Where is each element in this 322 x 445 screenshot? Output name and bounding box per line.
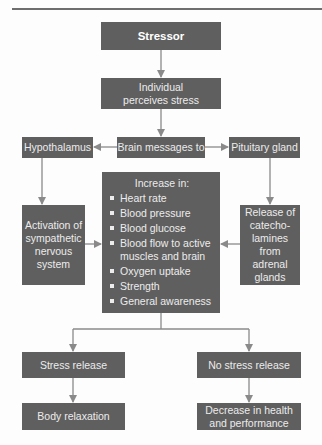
pituitary-label: Pituitary gland	[231, 141, 298, 154]
increase-box: Increase in: Heart rate Blood pressure B…	[102, 172, 220, 313]
list-item: Blood pressure	[110, 207, 214, 220]
brain-messages-label: Brain messages to	[118, 141, 205, 154]
stress-release-box: Stress release	[22, 352, 125, 378]
list-item: Blood flow to active muscles and brain	[110, 237, 214, 263]
list-item: Blood glucose	[110, 222, 214, 235]
list-item: General awareness	[110, 295, 214, 308]
pituitary-box: Pituitary gland	[229, 137, 300, 158]
no-stress-release-box: No stress release	[197, 352, 301, 378]
decrease-health-box: Decrease in health and performance	[197, 403, 301, 430]
activation-box: Activation of sympathetic nervous system	[22, 205, 85, 285]
bullet-icon	[110, 241, 114, 245]
list-item: Strength	[110, 280, 214, 293]
no-stress-release-label: No stress release	[208, 359, 290, 372]
increase-title: Increase in:	[110, 177, 214, 190]
list-item: Heart rate	[110, 192, 214, 205]
bullet-icon	[110, 299, 114, 303]
stressor-label: Stressor	[138, 30, 185, 43]
hypothalamus-box: Hypothalamus	[22, 137, 93, 158]
perceives-stress-label: Individual perceives stress	[115, 81, 207, 107]
activation-label: Activation of sympathetic nervous system	[24, 219, 83, 271]
bullet-icon	[110, 226, 114, 230]
bullet-icon	[110, 284, 114, 288]
bullet-icon	[110, 211, 114, 215]
release-catecholamines-box: Release of catecho-lamines from adrenal …	[240, 205, 300, 285]
stress-release-label: Stress release	[40, 359, 107, 372]
decrease-health-label: Decrease in health and performance	[201, 404, 297, 430]
body-relaxation-box: Body relaxation	[22, 403, 125, 430]
bullet-icon	[110, 196, 114, 200]
hypothalamus-label: Hypothalamus	[24, 141, 91, 154]
stressor-box: Stressor	[101, 22, 221, 50]
bullet-icon	[110, 269, 114, 273]
release-label: Release of catecho-lamines from adrenal …	[241, 206, 299, 284]
brain-messages-box: Brain messages to	[117, 137, 205, 158]
perceives-stress-box: Individual perceives stress	[101, 78, 221, 109]
body-relaxation-label: Body relaxation	[37, 410, 109, 423]
list-item: Oxygen uptake	[110, 265, 214, 278]
